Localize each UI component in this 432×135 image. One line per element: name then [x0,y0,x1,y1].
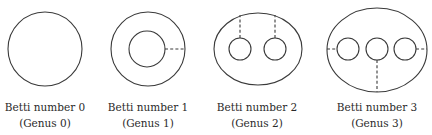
label-genus-1: Betti number 1 (Genus 1) [98,99,198,131]
hole-2 [264,38,286,60]
hole-2 [366,38,388,60]
disk-outline [8,12,82,86]
betti-title: Betti number 0 [0,99,95,115]
betti-title: Betti number 3 [327,99,427,115]
genus-subtitle: (Genus 1) [98,115,198,131]
panel-genus-0 [8,12,82,86]
panel-genus-2 [214,13,302,85]
hole-1 [229,38,251,60]
hole-1 [129,31,165,67]
panel-genus-1 [111,12,185,86]
hole-1 [337,38,359,60]
label-genus-0: Betti number 0 (Genus 0) [0,99,95,131]
outer-boundary [214,13,302,85]
panel-genus-3 [327,8,427,92]
genus-subtitle: (Genus 0) [0,115,95,131]
outer-boundary [327,8,427,92]
hole-3 [394,38,416,60]
label-genus-2: Betti number 2 (Genus 2) [207,99,307,131]
betti-title: Betti number 2 [207,99,307,115]
genus-subtitle: (Genus 3) [327,115,427,131]
betti-title: Betti number 1 [98,99,198,115]
genus-subtitle: (Genus 2) [207,115,307,131]
outer-boundary [111,12,185,86]
label-genus-3: Betti number 3 (Genus 3) [327,99,427,131]
